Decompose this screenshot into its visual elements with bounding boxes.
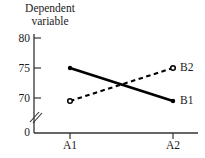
interaction-plot: Dependent variable 80 75 70 0 A1 A2 B2 B… xyxy=(0,0,205,158)
y-tick-label-70: 70 xyxy=(6,93,30,105)
marker-b1-a2 xyxy=(171,99,175,103)
plot-canvas xyxy=(0,0,205,158)
marker-b2-a2 xyxy=(171,66,176,71)
marker-b2-a1 xyxy=(68,99,73,104)
marker-b1-a1 xyxy=(68,66,72,70)
series-label-b2: B2 xyxy=(180,62,193,74)
x-tick-label-a2: A2 xyxy=(158,140,188,152)
x-tick-label-a1: A1 xyxy=(55,140,85,152)
y-tick-label-75: 75 xyxy=(6,63,30,75)
y-tick-label-80: 80 xyxy=(6,33,30,45)
series-label-b1: B1 xyxy=(180,95,193,107)
y-tick-label-0: 0 xyxy=(6,127,30,139)
